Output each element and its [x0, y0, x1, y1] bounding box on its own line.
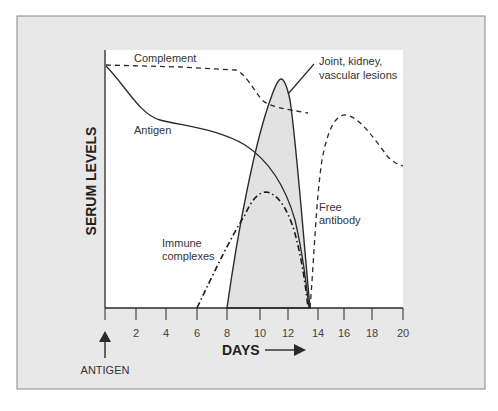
complement-label: Complement — [134, 52, 196, 64]
chart: 2 4 6 8 10 12 14 16 18 20 SERUM LEVELS D… — [0, 0, 498, 411]
free-antibody-label-line2: antibody — [319, 214, 361, 226]
x-tick-label: 4 — [163, 327, 169, 339]
immune-complexes-label-line2: complexes — [162, 250, 215, 262]
x-tick-label: 14 — [312, 327, 324, 339]
antigen-marker-label: ANTIGEN — [81, 364, 130, 376]
lesions-label-line2: vascular lesions — [319, 69, 398, 81]
x-tick-label: 8 — [224, 327, 230, 339]
x-tick-label: 20 — [397, 327, 409, 339]
x-tick-label: 2 — [133, 327, 139, 339]
lesions-label-line1: Joint, kidney, — [319, 55, 382, 67]
x-axis-title: DAYS — [222, 342, 260, 358]
y-axis-title: SERUM LEVELS — [83, 127, 99, 236]
x-tick-label: 18 — [366, 327, 378, 339]
x-tick-label: 10 — [254, 327, 266, 339]
antigen-label: Antigen — [134, 124, 171, 136]
free-antibody-label-line1: Free — [319, 201, 342, 213]
x-tick-label: 16 — [338, 327, 350, 339]
x-tick-label: 12 — [282, 327, 294, 339]
immune-complexes-label-line1: Immune — [162, 237, 202, 249]
x-tick-label: 6 — [194, 327, 200, 339]
